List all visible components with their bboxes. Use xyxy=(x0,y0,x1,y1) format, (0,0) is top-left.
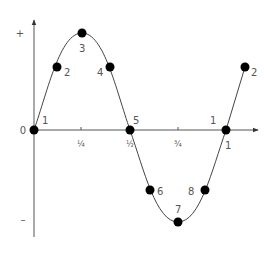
data-point xyxy=(146,186,155,195)
data-point xyxy=(174,218,183,227)
x-axis-tick-labels: ¼½¾ xyxy=(77,140,182,149)
data-point xyxy=(201,186,210,195)
x-tick-label-one: 1 xyxy=(225,140,231,151)
point-label: 1 xyxy=(42,115,48,126)
origin-label: 0 xyxy=(20,125,26,136)
point-label: 7 xyxy=(175,204,181,215)
point-label: 8 xyxy=(188,186,194,197)
point-label: 3 xyxy=(79,43,85,54)
point-label: 4 xyxy=(97,67,103,78)
data-point xyxy=(53,63,62,72)
data-point xyxy=(126,126,135,135)
point-label: 6 xyxy=(157,186,163,197)
data-point xyxy=(241,63,250,72)
x-tick-label: ¼ xyxy=(77,140,85,149)
data-points xyxy=(30,29,250,227)
point-label: 2 xyxy=(251,67,257,78)
x-tick-label: ¾ xyxy=(174,140,182,149)
sine-wave-diagram: + – 0 ¼½¾ 12345678121 xyxy=(0,0,264,275)
data-point xyxy=(30,126,39,135)
data-point xyxy=(222,126,231,135)
point-label: 2 xyxy=(64,67,70,78)
x-tick-label: ½ xyxy=(126,140,134,149)
point-label: 1 xyxy=(210,115,216,126)
sine-curve xyxy=(34,33,245,222)
y-minus-label: – xyxy=(21,214,26,225)
y-plus-label: + xyxy=(16,28,24,39)
point-label: 5 xyxy=(133,115,139,126)
data-point xyxy=(78,29,87,38)
data-point xyxy=(106,63,115,72)
